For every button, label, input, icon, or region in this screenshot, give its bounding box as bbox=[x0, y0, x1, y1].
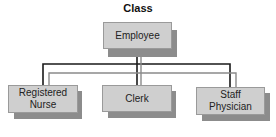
gray-connector bbox=[49, 57, 236, 87]
clerk-node-box: Clerk bbox=[102, 85, 172, 112]
employee-node-box: Employee bbox=[103, 22, 172, 49]
employee-label: Employee bbox=[115, 30, 159, 42]
staff-physician-node-box: Staff Physician bbox=[196, 87, 265, 115]
registered-nurse-label: Registered Nurse bbox=[19, 87, 67, 111]
clerk-label: Clerk bbox=[125, 93, 148, 105]
staff-physician-label: Staff Physician bbox=[209, 89, 252, 113]
registered-nurse-node-box: Registered Nurse bbox=[8, 85, 78, 113]
